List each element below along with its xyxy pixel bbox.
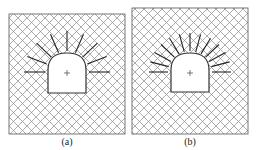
panel-b: [132, 8, 248, 134]
caption-a: (a): [47, 136, 87, 147]
figure-canvas: [0, 0, 259, 150]
panel-a: [9, 14, 125, 134]
caption-b: (b): [170, 136, 210, 147]
